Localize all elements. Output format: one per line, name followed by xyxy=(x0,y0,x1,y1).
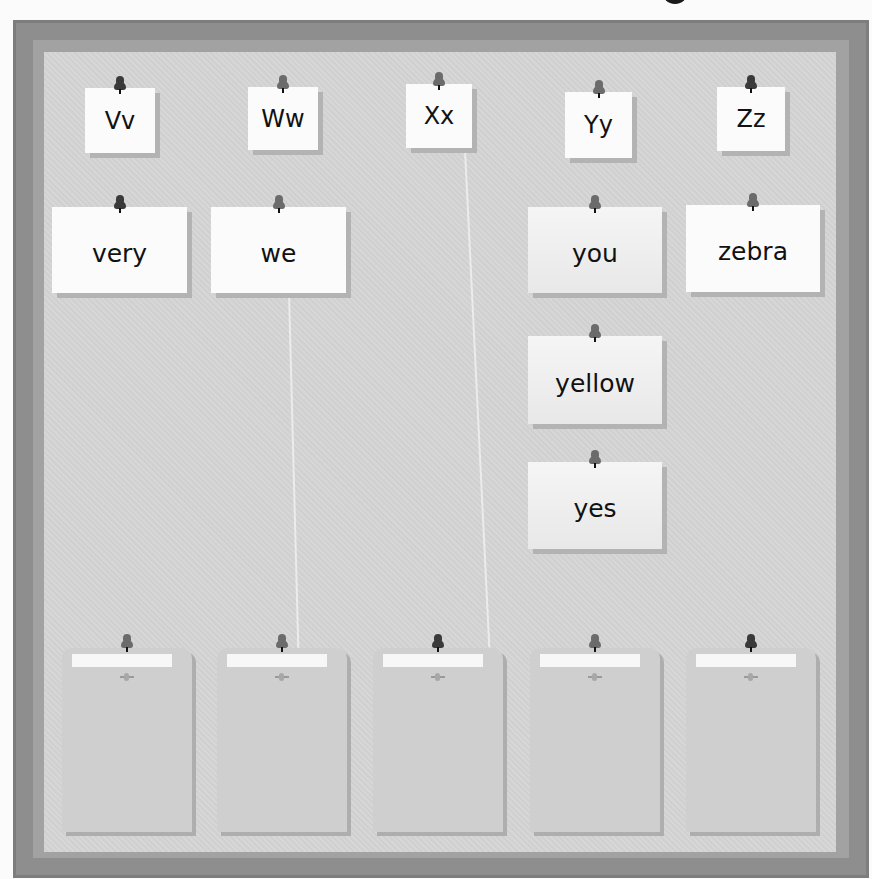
letter-card-label: Yy xyxy=(584,111,613,139)
pocket-label-strip xyxy=(696,654,796,667)
word-card-you[interactable]: you xyxy=(528,207,662,293)
pushpin-icon xyxy=(273,195,285,215)
letter-card-yy: Yy xyxy=(565,92,632,158)
letter-card-ww: Ww xyxy=(248,87,318,150)
letter-card-label: Xx xyxy=(424,102,455,130)
sort-pocket-ww[interactable] xyxy=(217,648,347,832)
letter-card-label: Ww xyxy=(261,105,304,133)
letter-card-zz: Zz xyxy=(717,87,785,151)
pushpin-icon xyxy=(589,195,601,215)
pushpin-icon xyxy=(589,450,601,470)
word-card-very[interactable]: very xyxy=(52,207,187,293)
pocket-clasp-icon xyxy=(275,676,289,678)
word-card-label: yes xyxy=(573,494,616,523)
word-card-label: we xyxy=(261,239,297,268)
word-card-label: you xyxy=(572,239,618,268)
letter-card-label: Zz xyxy=(736,105,765,133)
pushpin-icon xyxy=(745,634,757,654)
pushpin-icon xyxy=(747,193,759,213)
word-card-label: very xyxy=(92,239,147,268)
pushpin-icon xyxy=(114,76,126,96)
pushpin-icon xyxy=(589,634,601,654)
pocket-label-strip xyxy=(383,654,483,667)
pocket-clasp-icon xyxy=(588,676,602,678)
pocket-clasp-icon xyxy=(120,676,134,678)
pushpin-icon xyxy=(433,72,445,92)
sort-pocket-vv[interactable] xyxy=(62,648,192,832)
pushpin-icon xyxy=(114,195,126,215)
pocket-clasp-icon xyxy=(744,676,758,678)
word-card-zebra[interactable]: zebra xyxy=(686,205,820,292)
pocket-label-strip xyxy=(227,654,327,667)
letter-card-vv: Vv xyxy=(85,88,155,153)
word-card-we[interactable]: we xyxy=(211,207,346,293)
word-card-yes[interactable]: yes xyxy=(528,462,662,549)
letter-card-label: Vv xyxy=(105,107,136,135)
pushpin-icon xyxy=(432,634,444,654)
pushpin-icon xyxy=(589,324,601,344)
sort-pocket-zz[interactable] xyxy=(686,648,816,832)
sort-pocket-yy[interactable] xyxy=(530,648,660,832)
word-card-label: yellow xyxy=(555,369,635,398)
pocket-label-strip xyxy=(540,654,640,667)
sort-pocket-xx[interactable] xyxy=(373,648,503,832)
word-card-label: zebra xyxy=(718,237,788,266)
word-card-yellow[interactable]: yellow xyxy=(528,336,662,424)
clipped-title-glyph xyxy=(662,0,688,4)
pushpin-icon xyxy=(745,75,757,95)
pocket-label-strip xyxy=(72,654,172,667)
pushpin-icon xyxy=(593,80,605,100)
pushpin-icon xyxy=(276,634,288,654)
pushpin-icon xyxy=(121,634,133,654)
pushpin-icon xyxy=(277,75,289,95)
pocket-clasp-icon xyxy=(431,676,445,678)
letter-card-xx: Xx xyxy=(406,84,472,148)
